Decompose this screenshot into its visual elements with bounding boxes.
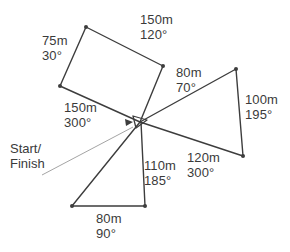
leg-distance: 80m (176, 65, 202, 80)
leg-label-150m-120: 150m 120° (140, 12, 173, 42)
leg-label-80m-90: 80m 90° (96, 211, 122, 241)
start-finish-leader-line (42, 127, 133, 175)
leg-bearing: 120° (140, 27, 173, 42)
leg-label-150m-300: 150m 300° (64, 100, 97, 130)
leg-label-80m-70: 80m 70° (176, 65, 202, 95)
leg-label-100m-195: 100m 195° (245, 92, 278, 122)
vertex-point (234, 67, 238, 71)
start-finish-label-line2: Finish (10, 156, 45, 171)
leg-path-bottom-left (72, 122, 140, 206)
vertex-point (58, 84, 62, 88)
vertex-point (241, 154, 245, 158)
start-finish-label: Start/ Finish (10, 141, 45, 171)
vertex-point (84, 25, 88, 29)
leg-bearing: 300° (187, 165, 220, 180)
leg-distance: 150m (140, 12, 173, 27)
leg-distance: 80m (96, 211, 122, 226)
leg-bearing: 185° (144, 173, 176, 188)
vertex-point (70, 204, 74, 208)
leg-bearing: 90° (96, 226, 122, 241)
course-diagram: 150m 120° 75m 30° 80m 70° 100m 195° 150m… (0, 0, 290, 252)
leg-distance: 100m (245, 92, 278, 107)
leg-bearing: 300° (64, 115, 97, 130)
start-finish-label-line1: Start/ (10, 141, 45, 156)
vertex-point (143, 204, 147, 208)
start-finish-marker (125, 116, 147, 128)
leg-label-120m-300: 120m 300° (187, 150, 220, 180)
leg-path-100m-195 (236, 69, 243, 156)
leg-label-75m-30: 75m 30° (42, 33, 68, 63)
leg-bearing: 70° (176, 80, 202, 95)
leg-label-110m-185: 110m 185° (144, 158, 176, 188)
leader-arrowhead-icon (125, 119, 133, 126)
leg-distance: 110m (144, 158, 176, 173)
leg-distance: 75m (42, 33, 68, 48)
leg-bearing: 195° (245, 107, 278, 122)
leg-distance: 150m (64, 100, 97, 115)
vertex-point (161, 64, 165, 68)
leg-path-return-to-center-upper (140, 66, 163, 122)
leg-bearing: 30° (42, 48, 68, 63)
leg-distance: 120m (187, 150, 220, 165)
